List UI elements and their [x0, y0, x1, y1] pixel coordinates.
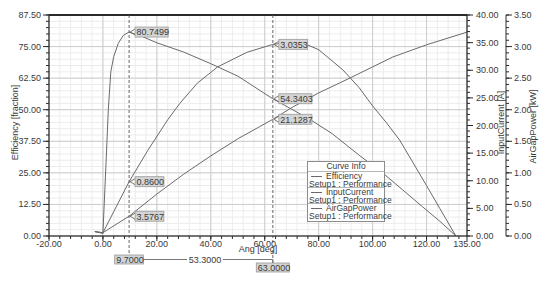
x-tick-label: 100.00 — [359, 239, 387, 249]
x-axis-title: Ang [deg] — [193, 244, 323, 255]
efficiency-line-swatch — [311, 176, 322, 177]
inputcurrent-curve[interactable] — [95, 32, 467, 233]
y-tick-label-left: 50.00 — [18, 105, 41, 115]
grid — [49, 15, 467, 236]
y-tick-label-right2: 3.00 — [514, 42, 532, 52]
delta-label: 53.3000 — [189, 255, 222, 265]
y-tick-label-right2: 0.50 — [514, 199, 532, 209]
axes: -20.000.0020.0040.0060.0080.00100.00120.… — [18, 10, 531, 249]
legend-entry-inputcurrent[interactable]: InputCurrent Setup1 : Performance — [308, 188, 384, 204]
legend-entry-airgappower[interactable]: AirGapPower Setup1 : Performance — [308, 204, 384, 219]
inputcurrent-line-swatch — [311, 192, 322, 193]
chart-canvas: -20.000.0020.0040.0060.0080.00100.00120.… — [0, 0, 547, 283]
legend-series-name: Efficiency — [326, 171, 362, 181]
y-tick-label-right1: 40.00 — [476, 10, 499, 20]
marker-value-label: 3.5767 — [137, 212, 165, 222]
y-tick-label-left: 0.00 — [23, 231, 41, 241]
marker-value-label: 54.3403 — [280, 94, 313, 104]
airgappower-line-swatch — [311, 208, 322, 209]
marker-value-label: 3.0353 — [280, 40, 308, 50]
marker-x-label: 63.0000 — [258, 263, 291, 273]
y-axis-right1-title: InputCurrent [A] — [496, 58, 507, 188]
legend-entry-efficiency[interactable]: Efficiency Setup1 : Performance — [308, 172, 384, 188]
marker-value-label: 80.7499 — [137, 27, 170, 37]
marker-value-label: 0.8600 — [137, 177, 165, 187]
legend[interactable]: Curve Info Efficiency Setup1 : Performan… — [307, 161, 385, 222]
y-tick-label-left: 87.50 — [18, 10, 41, 20]
y-tick-label-right2: 0.00 — [514, 231, 532, 241]
x-tick-label: 20.00 — [146, 239, 169, 249]
y-tick-label-right2: 3.50 — [514, 10, 532, 20]
y-tick-label-left: 75.00 — [18, 42, 41, 52]
marker-value-label: 21.1287 — [280, 115, 313, 125]
x-tick-label: 0.00 — [94, 239, 112, 249]
y-axis-right2-title: AirGapPower [kW] — [528, 62, 539, 192]
y-tick-label-left: 62.50 — [18, 73, 41, 83]
legend-series-name: AirGapPower — [326, 203, 377, 213]
x-tick-label: 120.00 — [413, 239, 441, 249]
y-tick-label-left: 25.00 — [18, 168, 41, 178]
y-tick-label-right1: 0.00 — [476, 231, 494, 241]
y-axis-left-title: Efficiency [fraction] — [10, 58, 21, 188]
y-tick-label-right1: 35.00 — [476, 38, 499, 48]
plot-frame — [49, 15, 467, 236]
markers[interactable]: 80.74990.86003.57679.70003.035354.340321… — [115, 15, 313, 273]
y-tick-label-left: 12.50 — [18, 199, 41, 209]
y-tick-label-left: 37.50 — [18, 136, 41, 146]
marker-pointer-icon — [130, 213, 135, 219]
y-tick-label-right1: 5.00 — [476, 203, 494, 213]
legend-series-name: InputCurrent — [326, 187, 373, 197]
plot-curves — [95, 32, 467, 236]
marker-x-label: 9.7000 — [116, 255, 144, 265]
